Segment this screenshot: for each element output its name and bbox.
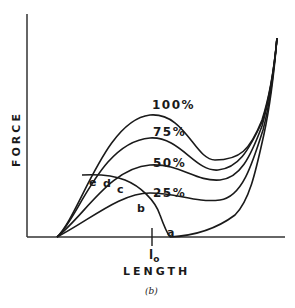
figure-caption: (b) <box>145 286 158 296</box>
force-length-diagram: 100% 75% 50% 25% e d c b a lo LENGTH FOR… <box>0 0 295 308</box>
label-25-percent: 25% <box>153 186 186 200</box>
point-label-a: a <box>167 226 174 239</box>
x-tick-label-l0: lo <box>149 248 159 264</box>
label-100-percent: 100% <box>152 98 195 112</box>
point-label-b: b <box>137 202 145 215</box>
y-axis-title: FORCE <box>10 111 23 167</box>
x-axis-title: LENGTH <box>123 265 190 278</box>
label-50-percent: 50% <box>153 156 186 170</box>
point-label-d: d <box>103 177 111 190</box>
point-label-c: c <box>117 183 124 196</box>
point-label-e: e <box>89 176 96 189</box>
label-75-percent: 75% <box>153 125 186 139</box>
